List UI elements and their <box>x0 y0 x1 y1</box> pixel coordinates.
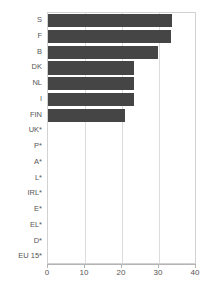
bar-row <box>48 92 195 108</box>
x-tick-label: 30 <box>146 268 170 277</box>
bar-row <box>48 234 195 250</box>
category-label: L* <box>0 170 44 186</box>
bar <box>48 14 172 27</box>
plot-area <box>47 12 196 264</box>
category-label: FIN <box>0 107 44 123</box>
x-tick-label: 20 <box>109 268 133 277</box>
bar <box>48 61 134 74</box>
category-label: IRL* <box>0 185 44 201</box>
x-tick-label: 40 <box>183 268 207 277</box>
bar <box>48 109 125 122</box>
bar-row <box>48 45 195 61</box>
bar-row <box>48 186 195 202</box>
bar-row <box>48 139 195 155</box>
bar-row <box>48 13 195 29</box>
category-label: UK* <box>0 122 44 138</box>
category-label: EL* <box>0 217 44 233</box>
bar-row <box>48 123 195 139</box>
category-label: DK <box>0 59 44 75</box>
category-label: P* <box>0 138 44 154</box>
x-tick-label: 0 <box>35 268 59 277</box>
bar-row <box>48 60 195 76</box>
category-label: NL <box>0 75 44 91</box>
bar-row <box>48 249 195 265</box>
bar <box>48 77 134 90</box>
x-tick-label: 10 <box>72 268 96 277</box>
category-label: B <box>0 44 44 60</box>
bar-row <box>48 171 195 187</box>
category-axis-labels: SFBDKNLIFINUK*P*A*L*IRL*E*EL*D*EU 15* <box>0 12 44 264</box>
bar-row <box>48 29 195 45</box>
category-label: EU 15* <box>0 248 44 264</box>
bar-series <box>48 13 195 263</box>
bar-row <box>48 202 195 218</box>
category-label: F <box>0 28 44 44</box>
bar-row <box>48 108 195 124</box>
category-label: S <box>0 12 44 28</box>
category-label: D* <box>0 233 44 249</box>
category-label: A* <box>0 154 44 170</box>
bar <box>48 30 171 43</box>
bar-row <box>48 76 195 92</box>
category-label: E* <box>0 201 44 217</box>
category-label: I <box>0 91 44 107</box>
bar-row <box>48 155 195 171</box>
bar <box>48 46 158 59</box>
bar <box>48 93 134 106</box>
bar-row <box>48 218 195 234</box>
bar-chart: SFBDKNLIFINUK*P*A*L*IRL*E*EL*D*EU 15* 01… <box>0 0 213 297</box>
